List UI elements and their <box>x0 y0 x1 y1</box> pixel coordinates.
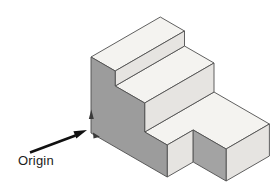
origin-arrow <box>30 130 87 153</box>
origin-arrow-shaft <box>30 136 76 153</box>
isometric-figure: Origin <box>0 0 280 186</box>
origin-label: Origin <box>18 153 54 168</box>
solid-faces <box>91 17 269 181</box>
origin-arrow-head-icon <box>73 130 87 139</box>
